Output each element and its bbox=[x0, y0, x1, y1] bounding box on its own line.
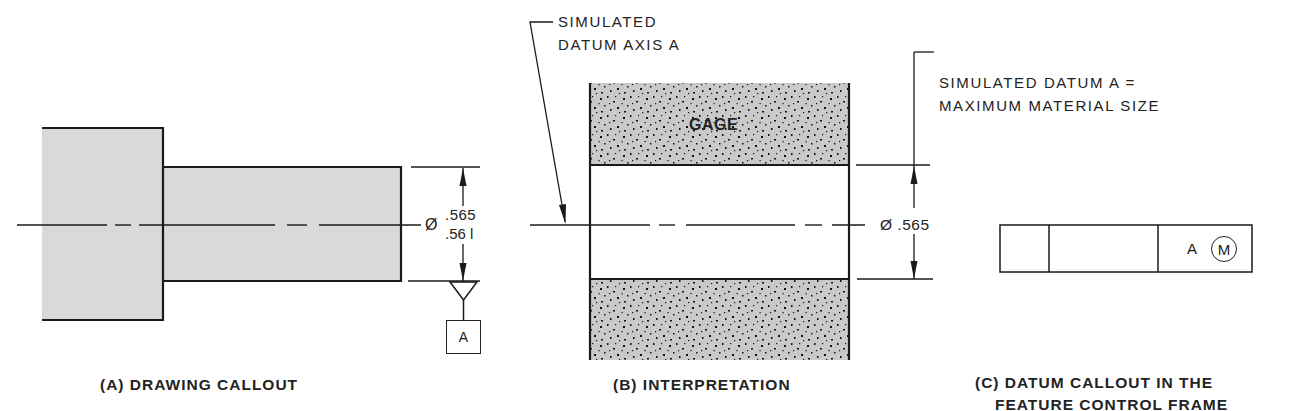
datum-letter-a: A bbox=[459, 329, 468, 345]
diameter-symbol-a: Ø bbox=[425, 217, 438, 233]
tolerance-lower: .56 l bbox=[445, 226, 473, 241]
panel-a-shaft bbox=[42, 128, 401, 320]
mmc-modifier-letter: M bbox=[1218, 241, 1231, 258]
gage-diameter-dimension: Ø .565 bbox=[880, 217, 930, 233]
panel-a-dimension-lines bbox=[408, 167, 480, 281]
mms-note-line1: SIMULATED DATUM A = bbox=[939, 75, 1136, 90]
simulated-datum-axis-note-line1: SIMULATED bbox=[558, 14, 657, 29]
panel-b-dimension-lines bbox=[856, 52, 934, 279]
fcf-datum-reference: A bbox=[1187, 241, 1197, 256]
caption-b: (B) INTERPRETATION bbox=[613, 377, 791, 393]
simulated-datum-axis-note-line2: DATUM AXIS A bbox=[558, 37, 680, 52]
caption-c-line1: (C) DATUM CALLOUT IN THE bbox=[975, 375, 1213, 391]
mms-note-line2: MAXIMUM MATERIAL SIZE bbox=[939, 98, 1160, 113]
mmc-modifier-icon: M bbox=[1211, 236, 1237, 262]
drawing-canvas bbox=[0, 0, 1293, 411]
tolerance-upper: .565 bbox=[445, 207, 476, 222]
caption-a: (A) DRAWING CALLOUT bbox=[100, 377, 298, 393]
datum-feature-symbol bbox=[450, 282, 477, 320]
gage-label: GAGE bbox=[689, 117, 738, 133]
datum-feature-box: A bbox=[446, 320, 481, 354]
caption-c-line2: FEATURE CONTROL FRAME bbox=[995, 397, 1228, 411]
